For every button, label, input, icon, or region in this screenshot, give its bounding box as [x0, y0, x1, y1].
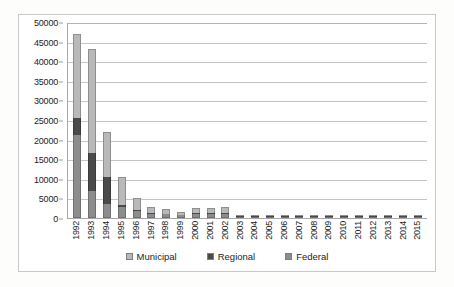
stacked-bar[interactable] [281, 215, 289, 218]
legend-label: Municipal [137, 251, 177, 262]
y-axis-tick-label: 15000 [34, 155, 58, 165]
bar-segment-regional [88, 153, 96, 190]
stacked-bar[interactable] [133, 198, 141, 218]
bar-slot [322, 23, 337, 218]
y-axis-tick-label: 10000 [34, 175, 58, 185]
stacked-bar[interactable] [177, 212, 185, 218]
bar-segment-federal [414, 217, 422, 218]
bar-slot [129, 23, 144, 218]
legend-swatch-icon [126, 253, 133, 260]
stacked-bar[interactable] [236, 215, 244, 218]
bar-slot [203, 23, 218, 218]
bar-segment-municipal [88, 49, 96, 153]
x-axis-tick-label: 1994 [101, 221, 111, 240]
bar-segment-federal [281, 217, 289, 218]
chart-frame: 0500010000150002000025000300003500040000… [18, 14, 436, 272]
x-axis-tick-label: 2005 [264, 221, 274, 240]
x-axis-tick-label: 2014 [398, 221, 408, 240]
stacked-bar[interactable] [251, 215, 259, 218]
bar-slot [114, 23, 129, 218]
x-axis-tick-label: 2001 [205, 221, 215, 240]
y-axis-tick-mark [59, 199, 63, 200]
y-axis-tick-label: 50000 [34, 18, 58, 28]
legend-swatch-icon [207, 253, 214, 260]
stacked-bar[interactable] [221, 207, 229, 218]
stacked-bar[interactable] [295, 215, 303, 218]
bar-slot [85, 23, 100, 218]
stacked-bar[interactable] [369, 215, 377, 218]
x-axis-tick-label: 2000 [190, 221, 200, 240]
bar-segment-federal [177, 215, 185, 218]
x-axis-tick-label: 1999 [175, 221, 185, 240]
stacked-bar[interactable] [103, 132, 111, 218]
x-axis-tick-label: 2003 [235, 221, 245, 240]
y-axis-tick-mark [59, 140, 63, 141]
plot-area-wrapper [67, 23, 427, 219]
legend-item[interactable]: Federal [285, 251, 328, 262]
bar-slot [366, 23, 381, 218]
bar-slot [144, 23, 159, 218]
bar-slot [351, 23, 366, 218]
x-axis-tick-label: 1995 [116, 221, 126, 240]
bar-slot [396, 23, 411, 218]
bar-slot [307, 23, 322, 218]
bar-slot [233, 23, 248, 218]
bar-segment-municipal [118, 177, 126, 205]
bar-slot [188, 23, 203, 218]
y-axis-tick-mark [59, 121, 63, 122]
stacked-bar[interactable] [266, 215, 274, 218]
bar-segment-federal [118, 207, 126, 218]
y-axis: 0500010000150002000025000300003500040000… [19, 23, 63, 219]
y-axis-tick-label: 0 [53, 214, 58, 224]
stacked-bar[interactable] [73, 34, 81, 218]
y-axis-tick-mark [59, 101, 63, 102]
bar-slot [174, 23, 189, 218]
stacked-bar[interactable] [325, 215, 333, 218]
stacked-bar[interactable] [340, 215, 348, 218]
y-axis-tick-label: 25000 [34, 116, 58, 126]
bar-slot [410, 23, 425, 218]
legend-item[interactable]: Regional [207, 251, 256, 262]
plot-area [67, 23, 427, 219]
bar-segment-federal [221, 214, 229, 218]
x-axis-tick-label: 2012 [368, 221, 378, 240]
x-axis-tick-label: 1992 [71, 221, 81, 240]
bar-series-container [68, 23, 427, 218]
x-axis-tick-label: 2010 [338, 221, 348, 240]
bar-slot [100, 23, 115, 218]
legend-label: Regional [218, 251, 256, 262]
stacked-bar[interactable] [384, 215, 392, 218]
y-axis-tick-label: 30000 [34, 96, 58, 106]
bar-segment-federal [340, 217, 348, 218]
stacked-bar[interactable] [162, 209, 170, 218]
x-axis-tick-label: 2011 [353, 221, 363, 239]
x-axis-tick-label: 2007 [294, 221, 304, 240]
legend-item[interactable]: Municipal [126, 251, 177, 262]
bar-segment-federal [251, 217, 259, 218]
bar-slot [262, 23, 277, 218]
stacked-bar[interactable] [355, 215, 363, 218]
bar-segment-municipal [103, 132, 111, 177]
bar-segment-federal [88, 191, 96, 218]
y-axis-tick-label: 5000 [39, 194, 58, 204]
stacked-bar[interactable] [88, 49, 96, 218]
stacked-bar[interactable] [399, 215, 407, 218]
stacked-bar[interactable] [414, 215, 422, 218]
y-axis-tick-mark [59, 179, 63, 180]
y-axis-tick-mark [59, 81, 63, 82]
bar-segment-federal [399, 217, 407, 218]
stacked-bar[interactable] [207, 208, 215, 218]
bar-segment-federal [384, 217, 392, 218]
stacked-bar[interactable] [192, 208, 200, 218]
y-axis-tick-label: 20000 [34, 136, 58, 146]
bar-segment-federal [236, 217, 244, 218]
stacked-bar[interactable] [310, 215, 318, 218]
bar-segment-federal [133, 211, 141, 218]
bar-segment-federal [103, 204, 111, 218]
stacked-bar[interactable] [118, 177, 126, 218]
bar-slot [292, 23, 307, 218]
x-axis-tick-label: 1993 [86, 221, 96, 240]
bar-segment-federal [310, 217, 318, 218]
legend-label: Federal [296, 251, 328, 262]
stacked-bar[interactable] [147, 207, 155, 218]
